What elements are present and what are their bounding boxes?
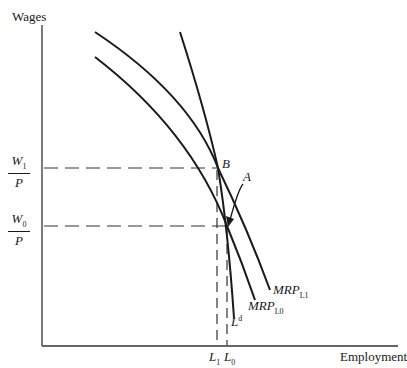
w0-num: W [12,211,23,226]
l0-sub: 0 [231,358,235,367]
fraction-bar [8,231,30,232]
mrp-l0-name: MRP [248,298,275,313]
labor-demand-label: Ld [231,315,242,328]
w1-den: P [15,175,23,190]
ld-sup: d [238,314,242,323]
w0-den: P [15,233,23,248]
x-axis-label: Employment [340,350,407,363]
mrp-l1-label: MRPL1 [273,283,309,300]
w0-sub: 0 [22,220,26,229]
labor-demand-curve [180,32,234,318]
mrp-l0-sub: L0 [275,307,284,316]
mrp-l0-curve [95,57,255,300]
l1-label: L1 [209,350,220,367]
l0-label: L0 [224,350,235,367]
y-axis-label: Wages [12,10,46,23]
mrp-l1-curve [95,32,270,290]
mrp-l1-sub: L1 [300,291,309,300]
w1-over-p-label: W1 P [8,154,30,189]
arrow-to-a [230,184,243,220]
mrp-l0-label: MRPL0 [248,299,284,316]
mrp-l1-name: MRP [273,282,300,297]
labor-demand-diagram: Wages Employment W1 P W0 P B A MRPL1 MRP… [0,0,407,368]
w0-over-p-label: W0 P [8,212,30,247]
point-a-label: A [243,170,251,183]
l1-sub: 1 [216,358,220,367]
w1-num: W [12,153,23,168]
diagram-graphics [0,0,407,368]
w1-sub: 1 [22,162,26,171]
point-b-label: B [222,157,230,170]
fraction-bar [8,173,30,174]
